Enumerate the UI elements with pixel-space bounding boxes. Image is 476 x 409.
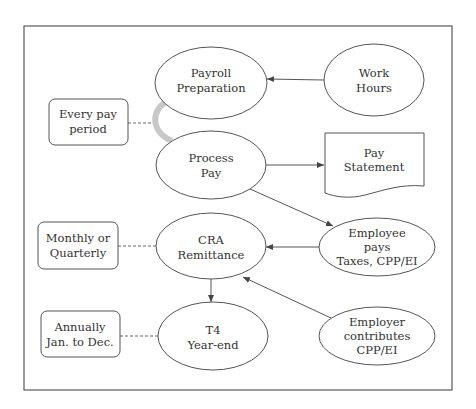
node-label: Preparation: [176, 81, 246, 95]
node-label: Hours: [356, 81, 392, 95]
node-cra-remittance: CRA Remittance: [156, 213, 266, 279]
node-label: Employee: [348, 226, 406, 240]
note-monthly-quarterly: Monthly or Quarterly: [38, 222, 118, 269]
node-t4-year-end: T4 Year-end: [158, 302, 268, 370]
node-label: Work: [359, 66, 390, 80]
note-every-pay-period: Every pay period: [49, 99, 128, 145]
node-label: Payroll: [191, 66, 232, 80]
note-label: Quarterly: [50, 246, 107, 260]
node-employee-pays: Employee pays Taxes, CPP/EI: [319, 218, 435, 276]
node-label: Process: [188, 151, 233, 165]
node-process-pay: Process Pay: [156, 131, 266, 199]
node-label: Remittance: [178, 248, 245, 262]
note-label: period: [69, 122, 107, 136]
node-label: CRA: [198, 233, 224, 247]
node-label: contributes: [344, 329, 411, 343]
node-label: Pay: [364, 146, 385, 160]
note-annually: Annually Jan. to Dec.: [41, 311, 120, 357]
node-label: Year-end: [186, 338, 239, 352]
note-label: Every pay: [59, 107, 118, 121]
node-label: CPP/EI: [356, 343, 397, 357]
node-label: Statement: [344, 160, 405, 174]
node-work-hours: Work Hours: [324, 44, 424, 116]
node-label: pays: [364, 240, 391, 254]
node-payroll-preparation: Payroll Preparation: [155, 47, 267, 119]
note-label: Monthly or: [46, 231, 111, 245]
node-employer-contributes: Employer contributes CPP/EI: [319, 307, 435, 365]
note-label: Jan. to Dec.: [45, 335, 114, 349]
note-label: Annually: [53, 320, 106, 334]
node-label: Employer: [349, 315, 406, 329]
node-label: T4: [206, 323, 221, 337]
payroll-flow-diagram: Payroll Preparation Work Hours Every pay…: [0, 0, 476, 409]
node-label: Taxes, CPP/EI: [336, 254, 417, 268]
node-label: Pay: [201, 166, 222, 180]
